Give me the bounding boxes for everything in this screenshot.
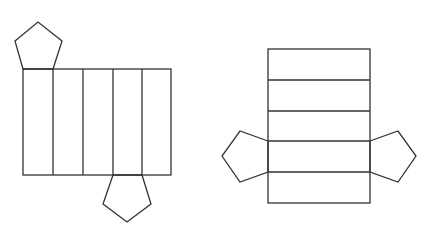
pentagon-base-top-left: [15, 22, 62, 69]
pentagon-base-left: [222, 131, 268, 182]
net-left: [15, 22, 171, 222]
lateral-faces-outline: [268, 49, 370, 203]
lateral-faces-outline: [23, 69, 171, 175]
pentagon-base-bottom: [103, 175, 151, 222]
prism-nets-diagram: [0, 0, 436, 235]
net-right: [222, 49, 416, 203]
pentagon-base-right: [370, 131, 416, 182]
